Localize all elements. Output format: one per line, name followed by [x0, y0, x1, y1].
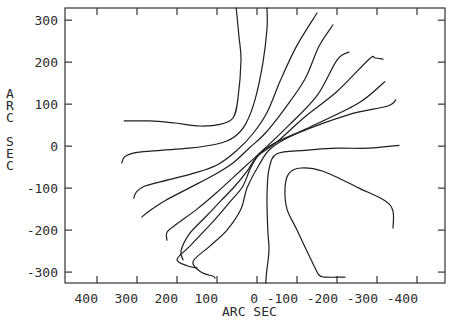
- contour-line-contour-4: [142, 25, 333, 217]
- x-axis-label: ARC SEC: [222, 304, 277, 319]
- contour-chart: 4003002001000-100-200-300-400 3002001000…: [0, 0, 450, 320]
- contour-lines: [122, 8, 399, 283]
- x-tick-label: 400: [75, 291, 98, 306]
- contour-line-contour-7: [177, 82, 385, 268]
- y-tick-label: -300: [27, 265, 58, 280]
- contour-line-contour-6: [181, 56, 383, 260]
- x-tick-label: -300: [347, 291, 378, 306]
- y-tick-labels: 3002001000-100-200-300: [27, 13, 58, 280]
- y-axis-label-char: C: [6, 110, 14, 125]
- y-tick-label: -200: [27, 223, 58, 238]
- plot-frame: [65, 8, 445, 283]
- axis-ticks: [65, 8, 445, 283]
- contour-line-contour-1: [124, 8, 241, 126]
- x-tick-label: 300: [115, 291, 138, 306]
- contour-line-contour-3: [134, 13, 317, 198]
- contour-line-contour-2: [122, 8, 268, 163]
- y-tick-label: 0: [50, 139, 58, 154]
- contour-line-contour-10: [285, 168, 394, 277]
- contour-line-contour-9: [266, 145, 399, 283]
- y-tick-label: -100: [27, 181, 58, 196]
- y-tick-label: 300: [35, 13, 58, 28]
- x-tick-label: 200: [155, 291, 178, 306]
- y-tick-label: 200: [35, 55, 58, 70]
- x-tick-label: -200: [307, 291, 338, 306]
- x-tick-label: -400: [387, 291, 418, 306]
- y-axis-label-char: C: [6, 158, 14, 173]
- y-tick-label: 100: [35, 97, 58, 112]
- x-tick-label: 100: [195, 291, 218, 306]
- y-axis-label: ARCSEC: [6, 86, 14, 173]
- contour-line-contour-5: [166, 52, 349, 240]
